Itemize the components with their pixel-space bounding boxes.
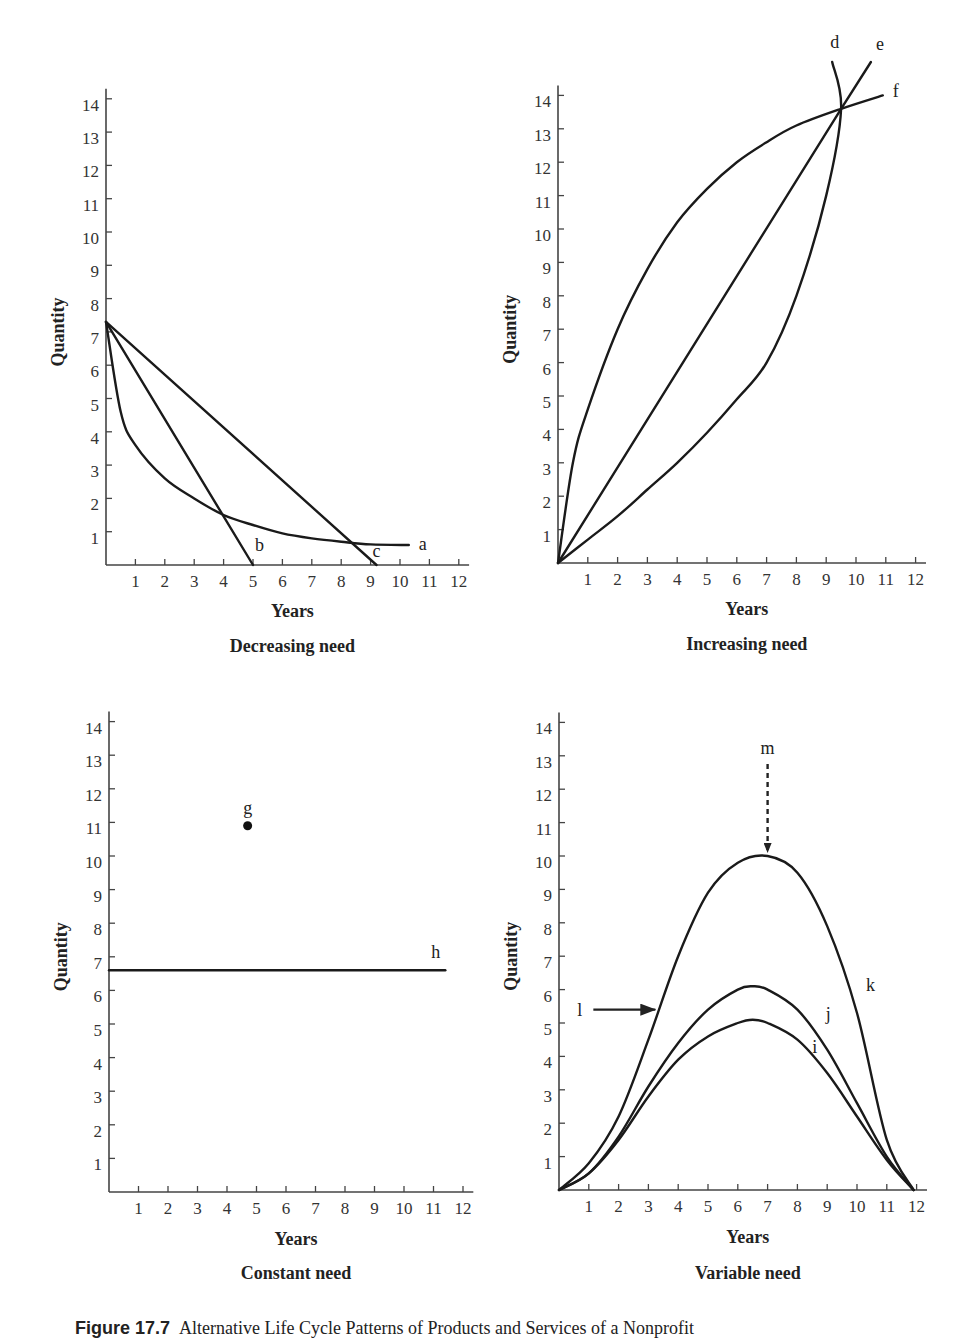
x-tick-label: 3: [190, 572, 199, 591]
series-label-c: c: [372, 541, 380, 561]
y-tick-label: 12: [535, 786, 552, 805]
x-tick-label: 9: [366, 572, 375, 591]
data-point-g: [243, 821, 252, 830]
series-label-f: f: [893, 81, 899, 101]
x-tick-label: 12: [907, 570, 924, 589]
x-tick-label: 9: [370, 1199, 379, 1218]
y-tick-label: 3: [94, 1088, 103, 1107]
y-tick-label: 6: [91, 362, 100, 381]
y-tick-label: 2: [94, 1122, 103, 1141]
chart-panel-variable-need: 1234567891011121314123456789101112YearsQ…: [501, 712, 927, 1283]
x-tick-label: 4: [223, 1199, 232, 1218]
x-tick-label: 7: [762, 570, 771, 589]
y-tick-label: 3: [91, 462, 100, 481]
series-line-b: [106, 322, 253, 565]
figure-number: Figure 17.7: [75, 1318, 170, 1338]
y-tick-label: 2: [543, 493, 552, 512]
y-tick-label: 7: [543, 326, 552, 345]
x-tick-label: 3: [643, 570, 652, 589]
x-tick-label: 4: [674, 1197, 683, 1216]
y-tick-label: 12: [85, 786, 102, 805]
y-tick-label: 5: [94, 1021, 103, 1040]
y-tick-label: 10: [85, 853, 102, 872]
y-tick-label: 3: [543, 460, 552, 479]
y-tick-label: 13: [82, 129, 99, 148]
x-tick-label: 9: [822, 570, 831, 589]
x-tick-label: 12: [455, 1199, 472, 1218]
y-tick-label: 1: [94, 1155, 103, 1174]
y-tick-label: 3: [544, 1087, 553, 1106]
x-tick-label: 11: [879, 1197, 895, 1216]
x-tick-label: 10: [396, 1199, 413, 1218]
y-tick-label: 9: [543, 259, 552, 278]
x-tick-label: 2: [614, 1197, 623, 1216]
y-tick-label: 6: [543, 360, 552, 379]
x-tick-label: 3: [644, 1197, 653, 1216]
x-tick-label: 1: [131, 572, 140, 591]
y-tick-label: 11: [83, 196, 99, 215]
y-tick-label: 14: [85, 719, 103, 738]
x-axis-title: Years: [725, 599, 768, 619]
series-label-h: h: [431, 942, 440, 962]
x-tick-label: 6: [278, 572, 287, 591]
y-tick-label: 14: [82, 96, 100, 115]
y-tick-label: 11: [86, 819, 102, 838]
x-tick-label: 7: [763, 1197, 772, 1216]
x-axis-title: Years: [271, 601, 314, 621]
y-axis-title: Quantity: [51, 922, 71, 991]
series-label-k: k: [866, 975, 875, 995]
y-tick-label: 4: [543, 426, 552, 445]
chart-panel-increasing-need: 1234567891011121314123456789101112YearsQ…: [500, 32, 926, 654]
panel-title: Constant need: [241, 1263, 352, 1283]
y-tick-label: 9: [91, 262, 100, 281]
y-tick-label: 5: [544, 1020, 553, 1039]
y-tick-label: 5: [543, 393, 552, 412]
series-label-b: b: [255, 535, 264, 555]
y-tick-label: 4: [94, 1055, 103, 1074]
x-axis-title: Years: [726, 1227, 769, 1247]
y-tick-label: 4: [544, 1053, 553, 1072]
y-tick-label: 8: [544, 920, 553, 939]
x-tick-label: 7: [311, 1199, 320, 1218]
y-tick-label: 10: [534, 226, 551, 245]
x-axis-title: Years: [275, 1229, 318, 1249]
x-tick-label: 1: [134, 1199, 143, 1218]
x-tick-label: 10: [848, 570, 865, 589]
x-tick-label: 6: [734, 1197, 743, 1216]
series-line-e: [558, 62, 871, 563]
figure-canvas: 1234567891011121314123456789101112YearsQ…: [0, 0, 975, 1338]
series-line-i: [559, 1020, 914, 1190]
x-tick-label: 6: [282, 1199, 291, 1218]
series-label-g: g: [243, 798, 252, 818]
y-axis-title: Quantity: [500, 295, 520, 364]
y-axis-title: Quantity: [48, 297, 68, 366]
series-line-c: [106, 322, 377, 565]
x-tick-label: 1: [584, 570, 593, 589]
y-tick-label: 10: [82, 229, 99, 248]
series-label-i: i: [812, 1037, 817, 1057]
x-tick-label: 2: [161, 572, 170, 591]
y-tick-label: 1: [544, 1154, 553, 1173]
panel-title: Decreasing need: [230, 636, 355, 656]
x-tick-label: 9: [823, 1197, 832, 1216]
series-line-d: [558, 62, 841, 563]
x-tick-label: 2: [164, 1199, 173, 1218]
x-tick-label: 11: [425, 1199, 441, 1218]
annotation-label-m: m: [761, 738, 775, 758]
y-tick-label: 8: [543, 293, 552, 312]
series-label-j: j: [825, 1004, 831, 1024]
x-tick-label: 10: [392, 572, 409, 591]
x-tick-label: 8: [341, 1199, 350, 1218]
y-tick-label: 7: [544, 953, 553, 972]
y-tick-label: 10: [535, 853, 552, 872]
series-label-d: d: [830, 32, 839, 52]
y-tick-label: 5: [91, 396, 100, 415]
x-tick-label: 5: [252, 1199, 261, 1218]
y-tick-label: 1: [91, 529, 100, 548]
chart-panel-decreasing-need: 1234567891011121314123456789101112YearsQ…: [48, 89, 469, 656]
x-tick-label: 8: [793, 1197, 802, 1216]
y-axis-title: Quantity: [501, 922, 521, 991]
y-tick-label: 8: [91, 296, 100, 315]
figure-caption: Figure 17.7 Alternative Life Cycle Patte…: [75, 1318, 694, 1338]
y-tick-label: 9: [544, 886, 553, 905]
